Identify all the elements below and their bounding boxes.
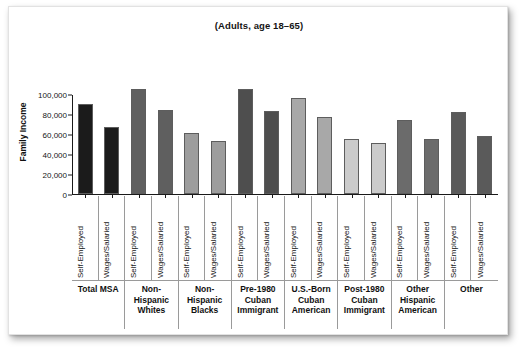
bar [104,127,119,194]
group-label: Total MSA [78,284,119,295]
bar [317,117,332,194]
group-label: Other [460,284,483,295]
group-label: Post-1980 Cuban Immigrant [344,284,385,316]
series-label-cell: Self-Employed [72,196,99,280]
series-label-cell: Wages/Salaried [312,196,339,280]
series-label: Wages/Salaried [315,222,324,278]
group-label: Non- Hispanic Blacks [187,284,222,316]
series-label-cell: Self-Employed [179,196,206,280]
series-label: Self-Employed [289,226,298,278]
series-label-cell: Self-Employed [392,196,419,280]
series-label-cell: Wages/Salaried [471,196,498,280]
y-tick-mark [68,135,72,136]
bar [477,136,492,194]
series-label-cell: Self-Employed [338,196,365,280]
group-label-cell: Total MSA [72,281,125,329]
series-label-cell: Wages/Salaried [205,196,232,280]
bar [397,120,412,194]
series-label: Wages/Salaried [369,222,378,278]
series-label: Self-Employed [449,226,458,278]
y-axis-line [72,95,73,195]
group-label-cell: Pre-1980 Cuban Immigrant [232,281,285,329]
chart-title: (Adults, age 18–65) [9,20,509,31]
series-label: Wages/Salaried [262,222,271,278]
group-label-cell: Non- Hispanic Blacks [179,281,232,329]
group-label: Pre-1980 Cuban Immigrant [237,284,278,316]
bar [264,111,279,194]
series-label-cell: Wages/Salaried [418,196,445,280]
bar [78,104,93,194]
y-axis-title: Family Income [18,87,28,177]
group-label: U.S.-Born Cuban American [292,284,331,316]
series-label: Self-Employed [182,226,191,278]
series-label: Self-Employed [76,226,85,278]
series-label: Self-Employed [129,226,138,278]
bar [158,110,173,195]
series-label-cell: Self-Employed [232,196,259,280]
bar [451,112,466,194]
series-label: Self-Employed [236,226,245,278]
series-label: Self-Employed [395,226,404,278]
series-label-cell: Wages/Salaried [99,196,126,280]
bar [424,139,439,194]
bar [371,143,386,194]
series-label: Wages/Salaried [156,222,165,278]
group-label: Other Hispanic American [398,284,437,316]
series-label: Self-Employed [342,226,351,278]
bar [184,133,199,194]
y-tick-mark [68,175,72,176]
series-label: Wages/Salaried [102,222,111,278]
y-tick-mark [68,155,72,156]
bar [211,141,226,195]
y-tick-label: 100,000 [38,91,72,100]
group-label: Non- Hispanic Whites [134,284,169,316]
group-label-cell: Post-1980 Cuban Immigrant [338,281,391,329]
plot-area: 020,00040,00060,00080,000100,000 [72,67,498,195]
x-axis-line [72,194,498,195]
series-label-cell: Wages/Salaried [365,196,392,280]
series-label-cell: Self-Employed [125,196,152,280]
series-label: Wages/Salaried [422,222,431,278]
figure-card: (Adults, age 18–65) Family Income 020,00… [8,6,508,335]
group-label-cell: Other [445,281,498,329]
group-label-row: Total MSANon- Hispanic WhitesNon- Hispan… [72,280,498,329]
y-tick-mark [68,115,72,116]
bar [344,139,359,194]
bar [238,89,253,195]
series-label: Wages/Salaried [476,222,485,278]
series-label-cell: Self-Employed [445,196,472,280]
group-label-cell: Other Hispanic American [392,281,445,329]
series-label: Wages/Salaried [209,222,218,278]
y-tick-mark [68,95,72,96]
bar [291,98,306,194]
series-label-cell: Wages/Salaried [152,196,179,280]
group-label-cell: U.S.-Born Cuban American [285,281,338,329]
bar [131,89,146,194]
series-label-cell: Self-Employed [285,196,312,280]
group-label-cell: Non- Hispanic Whites [125,281,178,329]
series-label-row: Self-EmployedWages/SalariedSelf-Employed… [72,196,498,280]
series-label-cell: Wages/Salaried [258,196,285,280]
